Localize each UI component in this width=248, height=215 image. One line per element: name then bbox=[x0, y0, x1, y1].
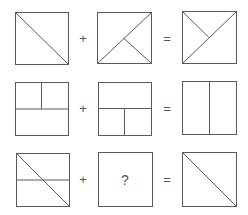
row-1-operand-a bbox=[16, 13, 69, 65]
plus-sign-row-3: + bbox=[79, 172, 87, 187]
row-3-result bbox=[183, 153, 237, 207]
row-1-operand-b bbox=[98, 13, 152, 64]
row-2-operand-a bbox=[16, 83, 69, 136]
row-3-operand-a bbox=[17, 154, 70, 207]
plus-sign-row-1: + bbox=[79, 31, 87, 46]
plus-sign-row-2: + bbox=[79, 101, 87, 116]
question-mark: ? bbox=[121, 172, 129, 188]
analogy-puzzle: + = + = + = ? bbox=[0, 0, 248, 215]
equals-sign-row-1: = bbox=[163, 31, 171, 46]
equals-sign-row-3: = bbox=[163, 172, 171, 187]
row-1-result bbox=[183, 12, 237, 64]
row-2-result bbox=[183, 82, 237, 135]
equals-sign-row-2: = bbox=[163, 101, 171, 116]
row-2-operand-b bbox=[99, 83, 152, 136]
